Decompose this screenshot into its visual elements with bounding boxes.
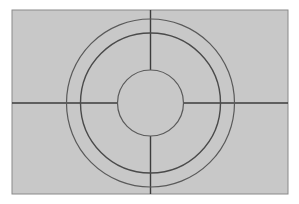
crosshair-diagram [0, 0, 299, 204]
diagram-canvas [0, 0, 299, 204]
